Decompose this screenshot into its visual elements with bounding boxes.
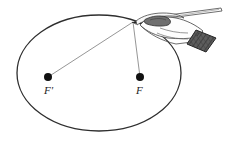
ellipse-construction-figure: F' F: [0, 0, 228, 149]
focus-pin-left: [44, 73, 52, 81]
focus-label-left: F': [44, 85, 53, 96]
focus-pin-right: [136, 73, 144, 81]
figure-background: [0, 0, 228, 149]
figure-canvas: [0, 0, 228, 149]
focus-label-right: F: [136, 85, 143, 96]
